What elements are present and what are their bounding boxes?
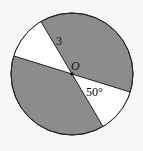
radius-label: 3: [56, 34, 62, 48]
angle-label: 50°: [86, 85, 103, 99]
circle-diagram: 3 O 50°: [0, 0, 143, 151]
center-label: O: [71, 59, 80, 73]
